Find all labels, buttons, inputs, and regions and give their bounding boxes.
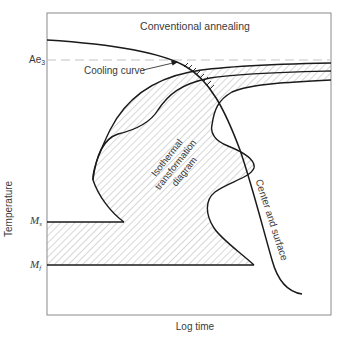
y-axis-label-container: Temperature: [4, 165, 16, 245]
ms-label-base: M: [30, 214, 39, 226]
ms-label-subscript: s: [39, 220, 42, 228]
ae3-label-base: Ae: [29, 54, 41, 65]
y-axis-label: Temperature: [4, 181, 14, 237]
diagram-title: Conventional annealing: [0, 21, 343, 32]
cooling-curve-pointer: [143, 63, 173, 70]
mf-label-subscript: f: [39, 264, 41, 272]
x-axis-label: Log time: [0, 322, 343, 332]
mf-label: Mf: [30, 259, 41, 272]
ae3-label: Ae3: [29, 55, 45, 66]
ae3-label-subscript: 3: [41, 59, 45, 66]
mf-label-base: M: [30, 258, 39, 270]
cooling-curve-label: Cooling curve: [84, 66, 145, 76]
ms-label: Ms: [30, 215, 42, 228]
